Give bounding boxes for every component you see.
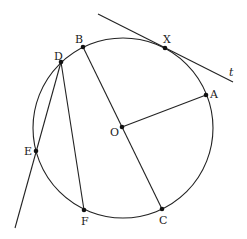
label-c: C [159,214,167,227]
point-x [163,46,168,51]
label-x: X [163,33,171,46]
label-a: A [209,88,219,101]
label-e: E [24,145,32,158]
label-d: D [54,50,63,63]
point-c [160,207,165,212]
point-o [120,125,125,130]
radius-oa [122,95,206,127]
label-b: B [75,33,83,46]
label-t: t [229,66,234,79]
point-e [34,149,39,154]
circle-diagram: B D X A O E F C t [0,0,247,239]
secant-de [15,62,61,228]
label-f: F [81,215,89,228]
point-f [82,208,87,213]
point-a [204,93,209,98]
label-o: O [110,126,119,139]
chord-df [61,62,84,210]
